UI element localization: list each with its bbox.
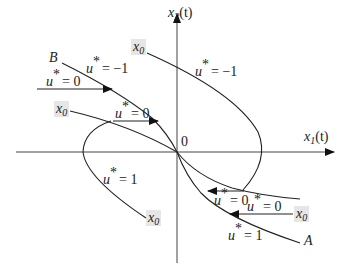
x0-left: x0 [54,101,69,118]
origin-label: 0 [181,134,188,149]
trajectory-left-x0 [70,111,177,152]
x0-bottom: x0 [146,210,161,227]
control-label-B: u*= −1 [86,54,128,76]
svg-text:u*= −1: u*= −1 [195,57,237,79]
x0-top: x0 [131,39,146,56]
svg-text:u*= −1: u*= −1 [86,54,128,76]
svg-text:u*= 1: u*= 1 [228,221,262,243]
trajectory-lower-upper [177,152,300,199]
svg-text:u*= 0: u*= 0 [115,99,149,121]
label-A: A [303,233,313,248]
y-axis-label: x2(t) [167,5,193,22]
control-label-top-right: u*= −1 [195,57,237,79]
control-label-u1-left: u*= 1 [103,165,137,187]
control-label-u0-mid: u*= 0 [115,99,149,121]
label-B: B [49,50,58,65]
x0-right: x0 [294,206,309,223]
phase-plane-diagram: x2(t) x1(t) 0 B A x0 x0 x0 x0 u*= −1 [0,0,348,276]
trajectory-top-u-minus1 [147,53,262,190]
svg-text:u*= 1: u*= 1 [103,165,137,187]
control-label-u1-lower: u*= 1 [228,221,262,243]
x-axis-label: x1(t) [303,129,329,146]
